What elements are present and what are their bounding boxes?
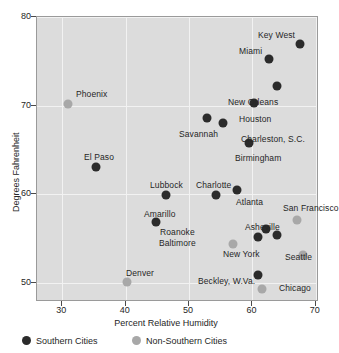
data-point[interactable] xyxy=(211,190,220,199)
data-point[interactable] xyxy=(233,186,242,195)
y-tick-label: 70 xyxy=(5,100,31,110)
data-point-label: Amarillo xyxy=(144,209,176,219)
x-tick-label: 40 xyxy=(110,305,140,315)
legend-label: Non-Southern Cities xyxy=(146,336,227,346)
data-point-label: Seattle xyxy=(285,252,312,262)
data-point[interactable] xyxy=(218,119,227,128)
data-point-label: Miami xyxy=(239,46,262,56)
data-point-label: Charlotte xyxy=(196,180,231,190)
legend-item[interactable]: Non-Southern Cities xyxy=(132,336,227,346)
gridline-horizontal xyxy=(37,283,317,284)
x-tick-label: 60 xyxy=(236,305,266,315)
data-point-label: Asheville xyxy=(245,222,280,232)
x-tick-label: 30 xyxy=(46,305,76,315)
legend-item[interactable]: Southern Cities xyxy=(22,336,98,346)
data-point-label: Denver xyxy=(126,268,154,278)
gridline-horizontal xyxy=(37,17,317,18)
data-point[interactable] xyxy=(292,215,301,224)
x-tick-mark xyxy=(61,301,62,306)
data-point[interactable] xyxy=(91,162,100,171)
data-point-label: Birmingham xyxy=(235,153,281,163)
x-tick-mark xyxy=(125,301,126,306)
data-point-label: Roanoke xyxy=(160,227,195,237)
data-point-label: Chicago xyxy=(279,283,311,293)
y-tick-label: 80 xyxy=(5,11,31,21)
data-point-label: Savannah xyxy=(179,129,218,139)
legend-label: Southern Cities xyxy=(36,336,98,346)
legend-swatch-icon xyxy=(22,336,31,345)
y-tick-mark xyxy=(31,282,36,283)
data-point-label: Baltimore xyxy=(159,238,196,248)
data-point[interactable] xyxy=(152,218,161,227)
data-point[interactable] xyxy=(254,232,263,241)
data-point[interactable] xyxy=(257,284,266,293)
data-point[interactable] xyxy=(229,239,238,248)
gridline-vertical xyxy=(126,17,127,300)
y-tick-mark xyxy=(31,16,36,17)
data-point[interactable] xyxy=(264,55,273,64)
y-axis-title: Degrees Fahrenheit xyxy=(11,132,21,212)
x-tick-mark xyxy=(188,301,189,306)
data-point-label: Charleston, S.C. xyxy=(241,134,305,144)
data-point[interactable] xyxy=(295,39,304,48)
y-tick-label: 50 xyxy=(5,277,31,287)
gridline-horizontal xyxy=(37,194,317,195)
x-tick-mark xyxy=(251,301,252,306)
chart-legend: Southern CitiesNon-Southern Cities xyxy=(0,336,332,350)
data-point-label: Atlanta xyxy=(236,197,263,207)
x-tick-label: 70 xyxy=(300,305,330,315)
data-point-label: Lubbock xyxy=(150,180,183,190)
data-point-label: San Francisco xyxy=(283,203,339,213)
data-point-label: Key West xyxy=(258,30,295,40)
data-point[interactable] xyxy=(202,113,211,122)
data-point[interactable] xyxy=(161,190,170,199)
data-point-label: El Paso xyxy=(84,152,114,162)
data-point[interactable] xyxy=(64,99,73,108)
gridline-vertical xyxy=(316,17,317,300)
data-point-label: Beckley, W.Va. xyxy=(198,276,255,286)
x-tick-label: 50 xyxy=(173,305,203,315)
data-point[interactable] xyxy=(122,277,131,286)
y-tick-mark xyxy=(31,105,36,106)
y-tick-mark xyxy=(31,193,36,194)
gridline-vertical xyxy=(62,17,63,300)
x-axis-title: Percent Relative Humidity xyxy=(0,318,332,328)
legend-swatch-icon xyxy=(132,336,141,345)
data-point-label: Phoenix xyxy=(76,89,107,99)
gridline-vertical xyxy=(189,17,190,300)
data-point-label: Houston xyxy=(239,114,271,124)
x-tick-mark xyxy=(315,301,316,306)
data-point-label: New York xyxy=(223,249,260,259)
data-point-label: New Orleans xyxy=(228,97,278,107)
data-point[interactable] xyxy=(272,82,281,91)
